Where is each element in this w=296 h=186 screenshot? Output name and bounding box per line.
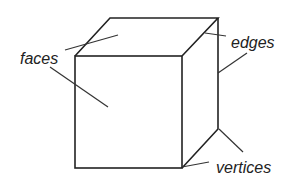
edges-pointer-side (218, 53, 247, 73)
top-face-outline (75, 18, 218, 56)
vertices-label: vertices (216, 159, 271, 176)
side-face-outline (182, 18, 218, 168)
faces-pointer-front (50, 67, 108, 107)
edges-label: edges (231, 34, 275, 51)
front-face (75, 56, 182, 168)
edges-pointer-top (205, 33, 226, 36)
vertices-pointer-back (219, 129, 243, 152)
cube-diagram: faces edges vertices (0, 0, 296, 186)
faces-label: faces (20, 50, 58, 67)
